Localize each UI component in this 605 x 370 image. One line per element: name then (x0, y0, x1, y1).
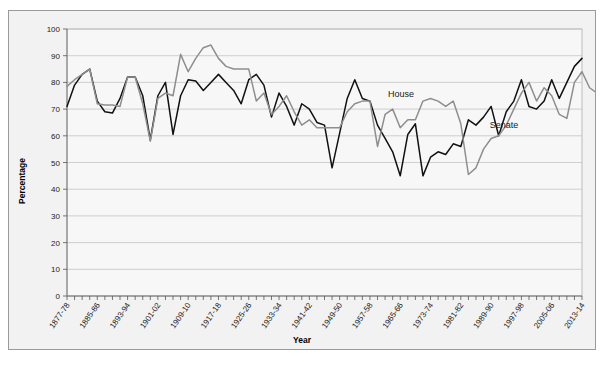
series-annotation-house: House (388, 89, 414, 99)
y-tick-label: 90 (51, 52, 60, 61)
y-tick-label: 100 (47, 25, 61, 34)
y-tick-label: 70 (51, 105, 60, 114)
y-tick-label: 40 (51, 185, 60, 194)
y-tick-label: 60 (51, 132, 60, 141)
y-tick-label: 0 (56, 292, 61, 301)
y-tick-label: 10 (51, 265, 60, 274)
x-axis-label: Year (293, 335, 312, 345)
y-tick-label: 80 (51, 78, 60, 87)
y-tick-label: 20 (51, 239, 60, 248)
chart-figure: 0102030405060708090100 1877-781885-86189… (8, 10, 596, 350)
y-tick-label: 30 (51, 212, 60, 221)
line-chart: 0102030405060708090100 1877-781885-86189… (9, 11, 595, 349)
y-axis-label: Percentage (17, 158, 27, 204)
series-annotation-senate: Senate (490, 120, 519, 130)
y-tick-label: 50 (51, 159, 60, 168)
